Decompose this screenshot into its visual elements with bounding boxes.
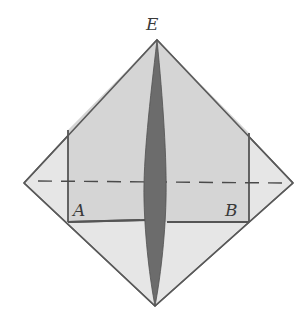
label-right-b: B [225,202,238,219]
label-top-e: E [146,16,158,33]
fold-drawing [0,0,305,316]
label-left-a: A [73,202,85,219]
origami-diagram: E A B [0,0,305,316]
